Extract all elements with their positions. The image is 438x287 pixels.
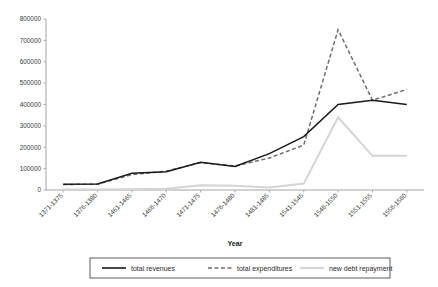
x-tick-label: 1546-1550 (312, 191, 339, 218)
series-line-total-expenditures (63, 30, 407, 185)
x-tick-label: 1376-1380 (72, 191, 99, 218)
x-tick-label: 1476-1480 (209, 191, 236, 218)
y-tick-label: 600000 (20, 58, 42, 65)
y-tick-label: 300000 (20, 122, 42, 129)
x-tick-label: 1371-1375 (37, 191, 64, 218)
legend-label-2: new debt repayment (329, 265, 392, 273)
axes-group (46, 19, 424, 190)
x-tick-label: 1461-1465 (106, 191, 133, 218)
series-group (63, 30, 407, 190)
y-tick-label: 400000 (20, 101, 42, 108)
y-axis-tick-labels: 0100000200000300000400000500000600000700… (20, 15, 42, 193)
x-axis-title: Year (227, 239, 242, 248)
x-axis-tick-labels: 1371-13751376-13801461-14651466-14701471… (37, 191, 408, 218)
y-tick-label: 800000 (20, 15, 42, 22)
y-tick-label: 200000 (20, 144, 42, 151)
y-tick-label: 0 (37, 186, 41, 193)
x-tick-label: 1481-1485 (244, 191, 271, 218)
y-tick-label: 100000 (20, 165, 42, 172)
chart-legend: total revenuestotal expendituresnew debt… (90, 258, 392, 278)
chart-container: 0100000200000300000400000500000600000700… (0, 0, 438, 287)
x-tick-label: 1541-1545 (278, 191, 305, 218)
series-line-total-revenues (63, 100, 407, 184)
legend-label-1: total expenditures (237, 265, 293, 273)
legend-label-0: total revenues (131, 265, 175, 272)
x-tick-label: 1466-1470 (140, 191, 167, 218)
x-tick-label: 1556-1560 (381, 191, 408, 218)
y-tick-label: 500000 (20, 79, 42, 86)
line-chart: 0100000200000300000400000500000600000700… (0, 0, 438, 287)
y-tick-label: 700000 (20, 37, 42, 44)
x-tick-label: 1551-1555 (347, 191, 374, 218)
x-tick-label: 1471-1475 (175, 191, 202, 218)
